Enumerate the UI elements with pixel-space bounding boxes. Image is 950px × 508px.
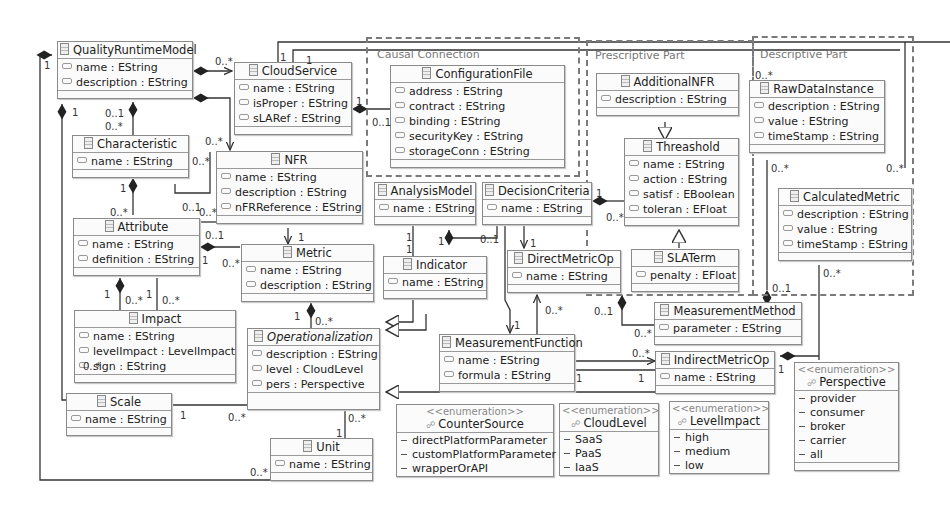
multiplicity: 1 <box>306 55 312 66</box>
attribute: definition : EString <box>74 252 199 267</box>
attribute-icon <box>78 255 88 261</box>
attribute-icon <box>629 175 639 181</box>
multiplicity: 1 <box>202 255 208 266</box>
class-scale[interactable]: Scale name : EString <box>66 393 172 436</box>
class-measurementfunction[interactable]: MeasurementFunction name : EString formu… <box>439 334 575 392</box>
class-operationalization[interactable]: Operationalization description : EString… <box>247 328 380 410</box>
literal-icon <box>401 440 407 441</box>
attribute-icon <box>221 173 231 179</box>
multiplicity: 0..* <box>634 328 652 339</box>
enum-literal: high <box>670 431 768 445</box>
attribute: storageConn : EString <box>391 144 564 159</box>
class-icon <box>790 190 799 202</box>
attribute-icon <box>395 117 405 123</box>
multiplicity: 1 <box>356 96 362 107</box>
attribute: name : EString <box>217 170 362 185</box>
enum-countersource[interactable]: <<enumeration>>☍CounterSource directPlat… <box>396 404 554 477</box>
class-rawdatainstance[interactable]: RawDataInstance description : EString va… <box>749 80 885 153</box>
attribute: name : EString <box>656 370 774 385</box>
class-qualityruntimemodel[interactable]: QualityRuntimeModel name : EString descr… <box>57 41 193 99</box>
attribute: description : EString <box>750 99 884 114</box>
multiplicity: 1 <box>280 52 286 63</box>
attribute: nFRReference : EString <box>217 200 362 215</box>
attribute: sLARef : EString <box>235 111 351 126</box>
class-indirectmetricop[interactable]: IndirectMetricOp name : EString <box>655 351 775 394</box>
enum-perspective[interactable]: <<enumeration>>☍Perspective provider con… <box>794 362 899 471</box>
attribute-icon <box>395 87 405 93</box>
frame-label-prescriptive: Prescriptive Part <box>595 49 685 62</box>
class-decisioncriteria[interactable]: DecisionCriteria name : EString <box>482 182 592 225</box>
attribute: securityKey : EString <box>391 129 564 144</box>
multiplicity: 1 <box>406 244 412 255</box>
class-slaterm[interactable]: SLATerm penalty : EFloat <box>631 249 739 292</box>
multiplicity: 0..* <box>105 121 123 132</box>
class-nfr[interactable]: NFR name : EString description : EString… <box>216 151 363 224</box>
class-icon <box>283 246 292 258</box>
attribute-icon <box>601 95 611 101</box>
enum-literal: IaaS <box>560 461 658 475</box>
class-icon <box>60 43 69 55</box>
attribute: name : EString <box>74 237 199 252</box>
attribute: name : EString <box>508 269 620 284</box>
class-icon <box>84 137 93 149</box>
attribute: parameter : EString <box>655 321 801 336</box>
multiplicity: 1 <box>530 238 536 249</box>
class-additionalnfr[interactable]: AdditionalNFR description : EString <box>596 73 739 116</box>
attribute: isProper : EString <box>235 96 351 111</box>
class-icon <box>760 82 769 94</box>
attribute: contract : EString <box>391 99 564 114</box>
attribute-icon <box>379 204 389 210</box>
enumeration-icon: ☍ <box>571 419 580 429</box>
multiplicity: 0..* <box>632 348 650 359</box>
attribute: name : EString <box>242 263 373 278</box>
literal-icon <box>564 467 570 468</box>
multiplicity: 0..1 <box>480 234 499 245</box>
attribute-icon <box>246 281 256 287</box>
attribute-icon <box>783 225 793 231</box>
attribute-icon <box>275 460 285 466</box>
attribute-icon <box>444 371 454 377</box>
enum-literal: carrier <box>795 434 898 448</box>
attribute-icon <box>239 99 249 105</box>
class-icon <box>249 64 258 76</box>
class-analysismodel[interactable]: AnalysisModel name : EString <box>374 182 476 225</box>
literal-icon <box>401 468 407 469</box>
enum-cloudlevel[interactable]: <<enumeration>>☍CloudLevel SaaS PaaS Iaa… <box>559 403 659 476</box>
class-icon <box>654 251 663 263</box>
attribute-icon <box>395 147 405 153</box>
attribute-icon <box>62 78 72 84</box>
class-attribute[interactable]: Attribute name : EString definition : ES… <box>73 218 200 276</box>
attribute: name : EString <box>375 201 475 216</box>
class-measurementmethod[interactable]: MeasurementMethod parameter : EString <box>654 302 802 345</box>
class-impact[interactable]: Impact name : EString levelImpact : Leve… <box>74 310 236 383</box>
attribute-icon <box>783 210 793 216</box>
class-unit[interactable]: Unit name : EString <box>270 438 373 481</box>
multiplicity: 0..1 <box>772 283 791 294</box>
multiplicity: 0..* <box>192 156 210 167</box>
class-metric[interactable]: Metric name : EString description : EStr… <box>241 244 374 302</box>
attribute: name : EString <box>625 157 738 172</box>
enum-levelimpact[interactable]: <<enumeration>>☍LevelImpact high medium … <box>669 401 769 474</box>
attribute: value : EString <box>779 222 911 237</box>
enum-literal: wrapperOrAPI <box>397 462 553 476</box>
multiplicity: 1 <box>294 311 300 322</box>
multiplicity: 1 <box>44 60 50 71</box>
multiplicity: 1 <box>576 373 582 384</box>
class-directmetricop[interactable]: DirectMetricOp name : EString <box>507 250 621 293</box>
class-calculatedmetric[interactable]: CalculatedMetric description : EString v… <box>778 188 912 261</box>
class-icon <box>254 330 263 342</box>
attribute: name : EString <box>75 329 235 344</box>
class-indicator[interactable]: Indicator name : EString <box>383 256 487 299</box>
attribute-icon <box>239 84 249 90</box>
class-icon <box>442 336 451 348</box>
multiplicity: 0..* <box>755 70 773 81</box>
class-cloudservice[interactable]: CloudService name : EString isProper : E… <box>234 62 352 135</box>
class-configurationfile[interactable]: ConfigurationFile address : EString cont… <box>390 65 565 168</box>
multiplicity: 1 <box>336 428 342 439</box>
class-characteristic[interactable]: Characteristic name : EString <box>72 135 189 178</box>
class-icon <box>660 304 669 316</box>
class-icon <box>643 140 652 152</box>
class-threashold[interactable]: Threashold name : EString action : EStri… <box>624 138 739 226</box>
attribute-icon <box>487 204 497 210</box>
attribute: toleran : EFloat <box>625 202 738 217</box>
